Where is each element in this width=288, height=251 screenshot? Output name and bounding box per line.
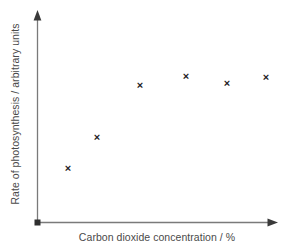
data-point: × <box>181 71 192 82</box>
data-point: × <box>63 163 74 174</box>
data-point: × <box>135 80 146 91</box>
y-axis-label: Rate of photosynthesis / arbitrary units <box>9 23 21 204</box>
scatter-plot-figure: × × × × × × Carbon dioxide concentration… <box>0 0 288 251</box>
x-axis-label: Carbon dioxide concentration / % <box>37 231 277 243</box>
data-points-layer: × × × × × × <box>0 0 288 251</box>
data-point: × <box>92 132 103 143</box>
data-point: × <box>222 78 233 89</box>
data-point: × <box>261 72 272 83</box>
y-axis-label-container: Rate of photosynthesis / arbitrary units <box>0 0 30 228</box>
